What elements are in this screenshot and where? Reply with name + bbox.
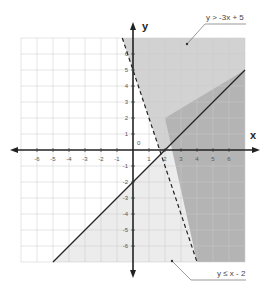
annotation-y-gt-neg3x-plus-5: y > -3x + 5 [206, 13, 244, 22]
x-tick-label: -3 [82, 156, 88, 162]
y-axis-arrow-up [130, 22, 136, 30]
x-axis-arrow-right [252, 147, 260, 153]
annotation-y-le-x-minus-2: y ≤ x - 2 [217, 269, 246, 278]
y-tick-label: -2 [123, 179, 129, 185]
x-tick-label: -2 [98, 156, 104, 162]
x-tick-label: -1 [114, 156, 120, 162]
annotation-dot-1 [186, 43, 188, 45]
y-tick-label: -6 [123, 243, 129, 249]
y-tick-label: -4 [123, 211, 129, 217]
annotation-dot-2 [171, 260, 173, 262]
inequality-graph: -6 -5 -4 -3 -2 -1 1 2 3 4 5 6 6 5 4 3 2 … [0, 0, 271, 295]
y-tick-label: -1 [123, 163, 129, 169]
x-tick-label: -6 [34, 156, 40, 162]
y-axis-arrow-down [130, 270, 136, 278]
x-tick-label: -4 [66, 156, 72, 162]
x-axis-label: x [250, 129, 257, 141]
y-axis-label: y [142, 20, 149, 32]
y-tick-label: -3 [123, 195, 129, 201]
y-tick-label: -5 [123, 227, 129, 233]
x-tick-label: -5 [50, 156, 56, 162]
x-axis-arrow-left [10, 147, 18, 153]
